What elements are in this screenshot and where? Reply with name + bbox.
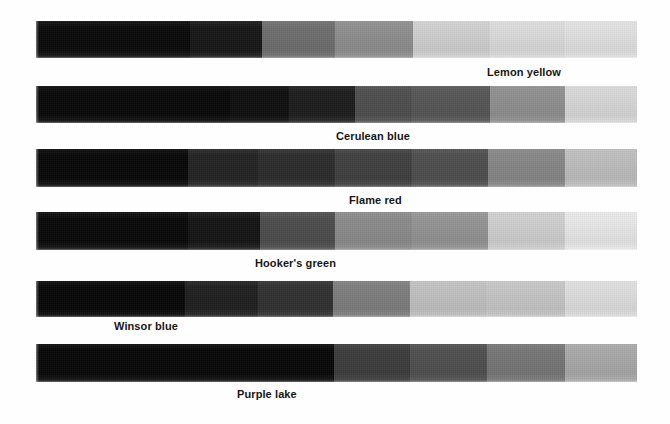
tonal-swatch	[487, 344, 565, 382]
tonal-swatch	[188, 149, 258, 187]
tonal-swatch	[190, 21, 262, 58]
tonal-swatch	[258, 149, 335, 187]
tonal-swatch	[412, 212, 488, 250]
chart-canvas: Lemon yellowCerulean blueFlame redHooker…	[0, 0, 670, 424]
tonal-swatch	[410, 281, 487, 317]
tonal-swatch	[490, 86, 565, 123]
tonal-swatch	[258, 281, 333, 317]
pigment-strip	[36, 86, 637, 123]
pigment-strip	[36, 149, 637, 187]
tonal-swatch	[185, 281, 258, 317]
tonal-swatch	[333, 281, 410, 317]
tonal-swatch	[335, 149, 412, 187]
tonal-swatch	[412, 86, 490, 123]
tonal-swatch	[413, 21, 490, 58]
tonal-swatch	[36, 344, 334, 382]
tonal-swatch	[36, 149, 188, 187]
tonal-swatch	[410, 344, 487, 382]
tonal-swatch	[36, 281, 185, 317]
tonal-swatch	[36, 21, 190, 58]
tonal-swatch	[565, 86, 637, 123]
tonal-swatch	[260, 212, 335, 250]
tonal-swatch	[565, 344, 637, 382]
pigment-label: Cerulean blue	[336, 130, 410, 143]
pigment-label: Lemon yellow	[487, 66, 561, 79]
tonal-swatch	[487, 281, 565, 317]
tonal-swatch	[289, 86, 355, 123]
tonal-swatch	[490, 21, 565, 58]
tonal-swatch	[335, 212, 412, 250]
pigment-label: Purple lake	[237, 388, 297, 401]
pigment-strip	[36, 344, 637, 382]
tonal-swatch	[262, 21, 335, 58]
tonal-swatch	[36, 212, 188, 250]
tonal-swatch	[565, 281, 637, 317]
tonal-swatch	[565, 212, 637, 250]
pigment-label: Flame red	[349, 194, 402, 207]
tonal-swatch	[412, 149, 488, 187]
tonal-swatch	[488, 212, 565, 250]
pigment-strip	[36, 21, 637, 58]
pigment-label: Hooker's green	[255, 257, 336, 270]
pigment-label: Winsor blue	[114, 320, 178, 333]
pigment-strip	[36, 212, 637, 250]
pigment-strip	[36, 281, 637, 317]
tonal-swatch	[335, 21, 413, 58]
tonal-swatch	[565, 149, 637, 187]
tonal-swatch	[355, 86, 412, 123]
tonal-swatch	[188, 212, 260, 250]
tonal-swatch	[230, 86, 289, 123]
tonal-swatch	[565, 21, 637, 58]
tonal-swatch	[36, 86, 230, 123]
tonal-swatch	[334, 344, 410, 382]
tonal-swatch	[488, 149, 565, 187]
